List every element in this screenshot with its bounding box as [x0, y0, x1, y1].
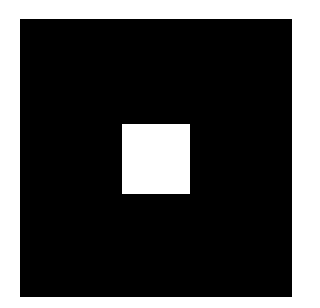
white-center-square [122, 124, 190, 194]
black-square [20, 19, 292, 297]
